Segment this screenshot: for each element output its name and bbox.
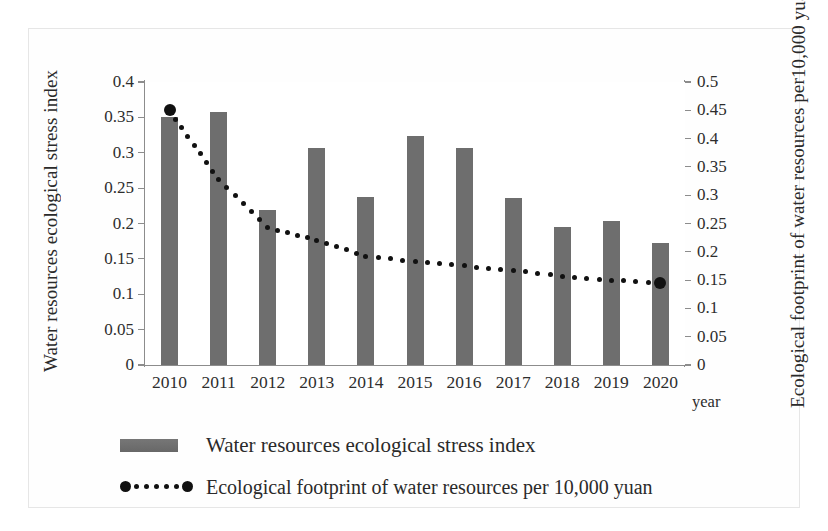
- right-axis-tick: [685, 280, 691, 281]
- line-dot: [474, 265, 479, 270]
- bar-2019: [603, 221, 620, 365]
- line-dot: [646, 280, 651, 285]
- x-axis-tick-labels: 2010201120122013201420152016201720182019…: [145, 372, 685, 398]
- line-dot: [597, 277, 602, 282]
- left-axis-tick: [138, 188, 144, 189]
- right-axis-tick: [685, 138, 691, 139]
- legend-dot: [154, 484, 159, 489]
- x-axis-tick-label-2020: 2020: [630, 372, 690, 393]
- plot-area: [145, 82, 685, 365]
- bar-2016: [456, 148, 473, 365]
- line-dot: [192, 143, 197, 148]
- right-axis-tick-label: 0.2: [697, 243, 718, 260]
- line-dot: [584, 276, 589, 281]
- legend-dot: [164, 484, 169, 489]
- line-dot: [305, 235, 310, 240]
- left-axis-tick: [138, 294, 144, 295]
- right-axis-title: Ecological footprint of water resources …: [784, 14, 812, 408]
- left-axis-tick: [138, 364, 144, 365]
- right-axis-tick-label: 0.45: [697, 101, 727, 118]
- line-dot: [560, 274, 565, 279]
- right-axis-tick: [685, 166, 691, 167]
- left-axis-tick-label: 0.1: [86, 285, 134, 302]
- legend-dot: [174, 484, 179, 489]
- bar-2017: [505, 198, 522, 365]
- left-axis-tick-label: 0.05: [86, 321, 134, 338]
- left-axis-tick-label: 0.4: [86, 73, 134, 90]
- line-dot: [511, 268, 516, 273]
- right-axis-tick: [685, 336, 691, 337]
- right-axis-tick-label: 0.1: [697, 299, 718, 316]
- left-axis-tick-label: 0.2: [86, 215, 134, 232]
- left-axis-tick-label: 0: [86, 356, 134, 373]
- line-dot: [486, 266, 491, 271]
- right-axis-title-line2-pre: 10,000 yuan GDP/(hm: [788, 0, 809, 78]
- legend-item-bar-series: Water resources ecological stress index: [120, 424, 720, 466]
- chart-figure: Water resources ecological stress index …: [0, 0, 828, 531]
- line-dot: [173, 117, 178, 122]
- line-marker-2010: [164, 104, 176, 116]
- bar-2013: [308, 148, 325, 365]
- right-axis-tick-label: 0: [697, 356, 706, 373]
- right-axis-tick: [685, 364, 691, 365]
- line-dot: [572, 275, 577, 280]
- bar-2011: [210, 112, 227, 365]
- legend-line-swatch-wrap: [120, 481, 206, 493]
- chart-legend: Water resources ecological stress index …: [120, 424, 720, 508]
- right-axis-title-line2: 10,000 yuan GDP/(hm2/10,000 yuan): [784, 0, 810, 78]
- line-dot: [285, 230, 290, 235]
- left-axis-tick: [138, 329, 144, 330]
- legend-dotted-line-swatch-icon: [120, 481, 194, 493]
- left-axis-tick: [138, 117, 144, 118]
- line-dot: [204, 160, 209, 165]
- line-dot: [354, 251, 359, 256]
- legend-item-bar-label: Water resources ecological stress index: [206, 433, 536, 458]
- legend-item-line-series: Ecological footprint of water resources …: [120, 466, 720, 508]
- legend-dot: [120, 481, 131, 492]
- left-axis-tick: [138, 258, 144, 259]
- line-dot: [233, 193, 238, 198]
- left-axis-tick-label: 0.3: [86, 144, 134, 161]
- right-axis-tick-label: 0.5: [697, 73, 718, 90]
- right-axis-tick-label: 0.4: [697, 130, 718, 147]
- bar-2020: [652, 243, 669, 365]
- left-axis-tick-label: 0.15: [86, 250, 134, 267]
- right-axis-tick-label: 0.3: [697, 186, 718, 203]
- bar-2014: [357, 197, 374, 365]
- legend-dot: [182, 481, 193, 492]
- line-dot: [609, 278, 614, 283]
- left-axis-tick-label: 0.35: [86, 108, 134, 125]
- left-axis-title: Water resources ecological stress index: [40, 36, 62, 406]
- line-dot: [241, 201, 246, 206]
- right-axis-tick: [685, 81, 691, 82]
- right-axis-tick: [685, 251, 691, 252]
- left-axis-tick: [138, 152, 144, 153]
- line-dot: [249, 209, 254, 214]
- legend-dot: [144, 484, 149, 489]
- bar-2018: [554, 227, 571, 365]
- line-dot: [548, 272, 553, 277]
- line-dot: [275, 228, 280, 233]
- line-dot: [400, 258, 405, 263]
- x-axis-line: [144, 365, 686, 366]
- bar-2010: [161, 117, 178, 365]
- x-axis-title: year: [692, 392, 720, 412]
- left-axis-tick: [138, 81, 144, 82]
- line-dot: [210, 169, 215, 174]
- right-axis-tick: [685, 195, 691, 196]
- right-axis-tick-label: 0.35: [697, 158, 727, 175]
- line-dot: [376, 255, 381, 260]
- right-axis-tick: [685, 110, 691, 111]
- bar-2015: [407, 136, 424, 365]
- left-axis-tick-label: 0.25: [86, 179, 134, 196]
- line-dot: [425, 260, 430, 265]
- legend-dot: [134, 484, 139, 489]
- right-axis-tick: [685, 308, 691, 309]
- right-axis-tick-label: 0.25: [697, 215, 727, 232]
- right-axis-tick: [685, 223, 691, 224]
- line-dot: [295, 233, 300, 238]
- legend-bar-swatch-icon: [120, 439, 178, 452]
- right-axis-tick-label: 0.15: [697, 271, 727, 288]
- legend-item-line-label: Ecological footprint of water resources …: [206, 476, 653, 499]
- line-dot: [413, 259, 418, 264]
